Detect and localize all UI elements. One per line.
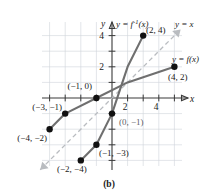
identity-line-label: y = x xyxy=(174,19,194,29)
point-label-n3-n1: (−3, −1) xyxy=(32,102,62,112)
y-tick-label-4: 4 xyxy=(99,31,104,41)
y-axis-label: y xyxy=(100,19,106,29)
x-tick-label-2: 2 xyxy=(123,102,128,112)
point-label-4-2: (4, 2) xyxy=(168,72,188,82)
inverse-function-label: y = f-1(x) xyxy=(115,18,149,30)
point-label-n2-n4: (−2, −4) xyxy=(57,164,87,174)
point-n4-n2 xyxy=(46,126,52,132)
point-n2-n4 xyxy=(78,157,84,163)
point-n3-n1 xyxy=(62,110,68,116)
point-label-n1-0: (−1, 0) xyxy=(67,81,92,91)
function-label: y = f(x) xyxy=(171,54,199,64)
x-tick-label-4: 4 xyxy=(154,102,159,112)
point-0-n1 xyxy=(109,110,115,116)
point-label-0-n1: (0, −1) xyxy=(119,117,144,127)
x-axis-label: x xyxy=(189,94,195,104)
point-label-2-4: (2, 4) xyxy=(146,25,166,35)
point-n1-0 xyxy=(93,95,99,101)
graph-canvas: x y 2 4 2 4 y = f-1(x) y = x y = f(x) (2… xyxy=(0,0,218,192)
y-tick-label-2: 2 xyxy=(99,62,104,72)
inverse-function-label-text: y = f xyxy=(115,19,135,29)
figure-caption: (b) xyxy=(103,179,115,190)
point-label-n1-n3: (−1, −3) xyxy=(99,148,129,158)
point-4-2 xyxy=(171,64,177,70)
inverse-function-graph-figure: x y 2 4 2 4 y = f-1(x) y = x y = f(x) (2… xyxy=(0,0,218,192)
point-label-n4-n2: (−4, −2) xyxy=(17,133,47,143)
